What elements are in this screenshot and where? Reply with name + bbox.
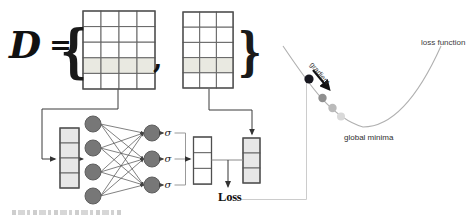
loss-landscape	[240, 46, 441, 200]
target-vector-cell	[243, 153, 260, 168]
input-vector-cell	[60, 173, 79, 188]
matrix-left-cell	[119, 27, 137, 43]
output-node	[144, 177, 160, 193]
input-vector-cell	[60, 143, 79, 158]
connection-line	[101, 159, 144, 172]
matrix-left-cell	[137, 27, 155, 43]
matrix-left-cell	[101, 58, 119, 74]
loss-label: Loss	[218, 191, 242, 204]
matrix-left-cell	[119, 42, 137, 58]
left-brace: {	[60, 22, 87, 80]
input-node	[85, 164, 101, 180]
matrix-left-cell	[119, 58, 137, 74]
matrix-left-cell	[101, 11, 119, 27]
dataset-matrix-left	[83, 11, 155, 89]
matrix-right-cell	[216, 58, 233, 73]
descent-dot	[337, 113, 345, 121]
descent-dot	[304, 74, 313, 83]
prediction-vector-cell	[194, 153, 212, 169]
dataset-matrix-right	[183, 12, 233, 88]
matrix-left-cell	[137, 11, 155, 27]
global-minima-label: global minima	[344, 134, 393, 142]
comparison-lines	[212, 160, 244, 187]
ml-training-diagram: D = { , } σ σ σ Loss loss function globa…	[0, 0, 474, 218]
dataset-symbol: D	[9, 23, 41, 67]
matrix-right-cell	[183, 73, 200, 88]
descent-dot	[328, 104, 336, 112]
prediction-vector	[194, 137, 212, 184]
input-node	[85, 188, 101, 204]
connection-line	[101, 124, 144, 185]
matrix-left-cell	[137, 73, 155, 89]
target-vector-cell	[243, 168, 260, 183]
connection-line	[101, 172, 144, 185]
network-nodes	[85, 116, 160, 204]
target-vector	[243, 138, 260, 183]
matrix-left-cell	[119, 73, 137, 89]
input-feature-vector	[60, 128, 79, 188]
matrix-right-cell	[200, 73, 217, 88]
descent-dot	[318, 94, 326, 102]
target-vector-cell	[243, 138, 260, 153]
output-node	[144, 151, 160, 167]
network-connections	[101, 124, 144, 196]
matrix-right-cell	[216, 27, 233, 42]
right-brace: }	[238, 26, 262, 78]
matrix-left-to-input-connector	[42, 89, 118, 159]
matrix-right-cell	[183, 58, 200, 73]
input-vector-cell	[60, 158, 79, 173]
matrix-right-cell	[200, 27, 217, 42]
matrix-right-cell	[216, 73, 233, 88]
matrix-left-cell	[101, 27, 119, 43]
connection-line	[101, 124, 144, 133]
connection-line	[101, 133, 144, 148]
matrix-right-cell	[200, 12, 217, 27]
loss-function-label: loss function	[421, 39, 465, 47]
input-node	[85, 140, 101, 156]
matrix-right-cell	[183, 12, 200, 27]
matrix-left-cell	[101, 42, 119, 58]
prediction-vector-cell	[194, 137, 212, 153]
input-node	[85, 116, 101, 132]
sigma-symbol: σ	[163, 154, 173, 164]
output-node	[144, 125, 160, 141]
cropped-caption-fragment	[12, 210, 122, 215]
input-vector-cell	[60, 128, 79, 143]
matrix-separator-comma: ,	[153, 45, 162, 72]
sigma-collector-bracket	[175, 133, 186, 185]
matrix-left-cell	[119, 11, 137, 27]
sigma-symbol: σ	[163, 128, 173, 138]
sigma-symbol: σ	[163, 180, 173, 190]
matrix-right-cell	[183, 42, 200, 57]
matrix-right-cell	[216, 12, 233, 27]
matrix-right-cell	[200, 58, 217, 73]
matrix-right-cell	[183, 27, 200, 42]
prediction-vector-cell	[194, 168, 212, 184]
matrix-right-cell	[216, 42, 233, 57]
matrix-left-cell	[101, 73, 119, 89]
matrix-right-cell	[200, 42, 217, 57]
matrix-right-to-target-connector	[209, 89, 252, 134]
